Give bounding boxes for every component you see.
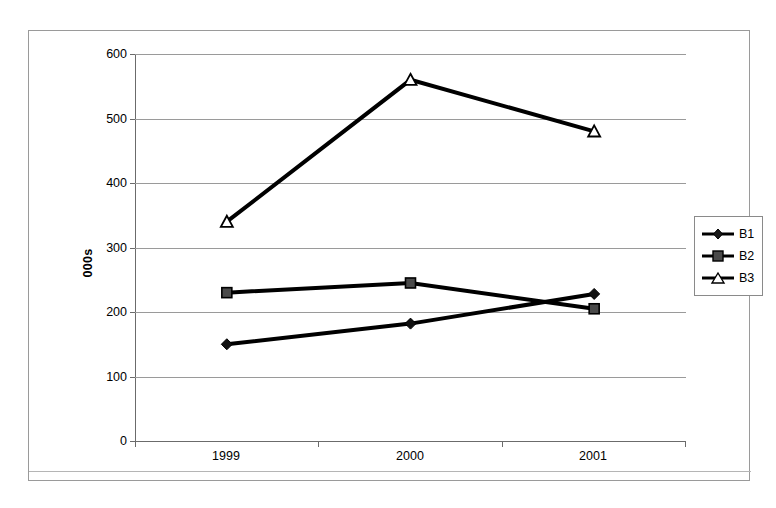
series-b3 (221, 74, 600, 227)
legend-label-b1: B1 (739, 228, 754, 240)
x-tick-mark-right (685, 441, 686, 447)
legend-item-b3[interactable]: B3 (701, 267, 754, 289)
series-b2 (222, 278, 599, 314)
x-tick-mark-1 (318, 441, 319, 447)
series-b1 (221, 288, 599, 349)
data-point-b1-2001 (589, 288, 600, 299)
series-plot (135, 54, 686, 441)
y-tick-label-600: 600 (81, 48, 127, 60)
x-tick-label-2000: 2000 (365, 449, 455, 463)
x-tick-mark-left (135, 441, 136, 447)
legend-label-b2: B2 (739, 250, 754, 262)
data-point-b2-1999 (222, 288, 232, 298)
y-tick-label-200: 200 (81, 306, 127, 318)
gridline-0-baseline (135, 441, 686, 442)
legend-marker-filled-square-icon (701, 248, 735, 264)
chart-frame: 000s 600 500 400 300 200 100 0 1999 2000… (28, 30, 750, 481)
y-tick-label-400: 400 (81, 177, 127, 189)
x-axis-bottom-rule (29, 471, 751, 472)
y-tick-label-100: 100 (81, 371, 127, 383)
chart-legend: B1 B2 B3 (694, 216, 763, 296)
plot-area (135, 54, 686, 441)
data-point-b1-1999 (221, 339, 232, 350)
x-tick-label-2001: 2001 (548, 449, 638, 463)
data-point-b2-2001 (589, 304, 599, 314)
y-tick-label-500: 500 (81, 113, 127, 125)
x-tick-label-1999: 1999 (181, 449, 271, 463)
y-tick-label-0: 0 (81, 435, 127, 447)
legend-marker-open-triangle-icon (701, 270, 735, 286)
data-point-b1-2000 (405, 318, 416, 329)
legend-marker-filled-diamond-icon (701, 226, 735, 242)
data-point-b2-2000 (406, 278, 416, 288)
series-line-b3 (227, 80, 594, 222)
x-tick-mark-2 (502, 441, 503, 447)
legend-item-b2[interactable]: B2 (701, 245, 754, 267)
y-tick-label-300: 300 (81, 242, 127, 254)
legend-item-b1[interactable]: B1 (701, 223, 754, 245)
legend-label-b3: B3 (739, 272, 754, 284)
